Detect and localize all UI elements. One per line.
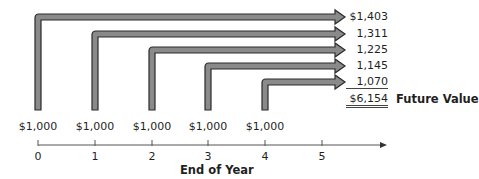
future-value-year-2: 1,225 <box>346 44 388 56</box>
deposit-year-2: $1,000 <box>127 121 177 133</box>
deposit-year-1: $1,000 <box>70 121 120 133</box>
axis-tick-2: 2 <box>145 151 159 163</box>
timeline-axis <box>38 140 387 148</box>
compound-arrow-year-4 <box>262 75 345 110</box>
deposit-year-4: $1,000 <box>240 121 290 133</box>
deposit-year-0: $1,000 <box>13 121 63 133</box>
future-value-year-3: 1,145 <box>346 60 388 72</box>
deposit-year-3: $1,000 <box>183 121 233 133</box>
axis-tick-1: 1 <box>88 151 102 163</box>
compound-arrow-year-0 <box>35 10 345 110</box>
axis-tick-4: 4 <box>258 151 272 163</box>
future-value-year-1: 1,311 <box>346 28 388 40</box>
axis-tick-0: 0 <box>31 151 45 163</box>
future-value-year-4: 1,070 <box>346 76 388 89</box>
annuity-timeline-diagram: $1,403 1,311 1,225 1,145 1,070 $6,154 Fu… <box>0 0 479 179</box>
future-value-total: $6,154 <box>346 93 388 108</box>
compound-arrow-year-2 <box>149 43 345 110</box>
arrow-graphics <box>0 0 479 179</box>
axis-tick-5: 5 <box>315 151 329 163</box>
axis-tick-3: 3 <box>201 151 215 163</box>
future-value-year-0: $1,403 <box>346 11 388 23</box>
axis-label: End of Year <box>180 164 254 176</box>
future-value-label: Future Value <box>396 93 479 105</box>
